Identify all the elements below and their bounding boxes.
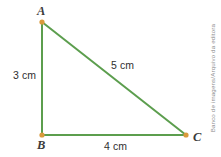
vertex-dot-b [39,132,44,137]
side-measure-bc: 4 cm [104,141,127,152]
triangle-side-ac [42,22,186,135]
triangle-figure: A B C 3 cm 5 cm 4 cm Banco de imagens/Ar… [0,0,221,157]
vertex-label-a: A [37,5,45,18]
vertex-label-b: B [37,139,45,152]
image-credit-text: Banco de imagens/Arquivo da editora [210,24,216,132]
side-measure-ab: 3 cm [13,70,36,81]
vertex-label-c: C [193,131,201,144]
vertex-dot-c [183,132,188,137]
image-credit: Banco de imagens/Arquivo da editora [207,0,220,157]
side-measure-ac: 5 cm [111,60,134,71]
vertex-dot-a [39,19,44,24]
